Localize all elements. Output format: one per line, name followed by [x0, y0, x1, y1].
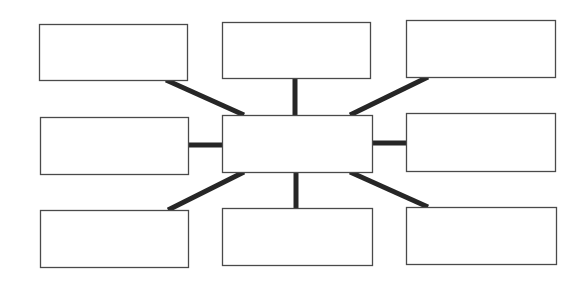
connector-top-right-to-center [350, 77, 428, 115]
center-box [223, 116, 373, 173]
node-box-bottom-right [407, 208, 557, 265]
node-box-top-left [40, 25, 188, 81]
box-outline [223, 23, 371, 79]
connector-bottom-left-to-center [168, 172, 244, 210]
box-outline [41, 211, 189, 268]
node-box-bottom-left [41, 211, 189, 268]
box-outline [223, 209, 373, 266]
box-outline [40, 25, 188, 81]
spider-diagram [0, 0, 584, 283]
box-outline [407, 21, 556, 78]
connector-top-left-to-center [166, 80, 244, 115]
box-outline [407, 208, 557, 265]
node-box-middle-left [41, 118, 189, 175]
box-outline [41, 118, 189, 175]
node-box-bottom-center [223, 209, 373, 266]
node-box-top-center [223, 23, 371, 79]
node-box-middle-right [407, 114, 556, 172]
boxes-layer [40, 21, 557, 268]
box-outline [407, 114, 556, 172]
box-outline [223, 116, 373, 173]
node-box-top-right [407, 21, 556, 78]
connector-bottom-right-to-center [350, 172, 428, 207]
